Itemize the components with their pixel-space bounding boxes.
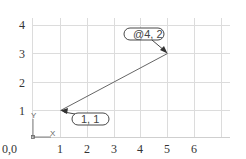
origin-label: 0,0 (2, 142, 17, 156)
x-tick-3: 3 (111, 142, 117, 156)
annotation-end: @4, 2 (124, 28, 168, 54)
annotation-end-text: @4, 2 (133, 28, 163, 40)
x-tick-2: 2 (84, 142, 90, 156)
x-tick-6: 6 (191, 142, 197, 156)
y-tick-1: 1 (19, 104, 25, 118)
y-tick-4: 4 (19, 18, 25, 32)
x-tick-5: 5 (164, 142, 170, 156)
axis-indicator-icon (32, 119, 52, 139)
y-axis-indicator-label: Y (31, 111, 37, 120)
arrowhead-icon (160, 46, 168, 54)
x-tick-1: 1 (57, 142, 63, 156)
annotation-start-text: 1, 1 (81, 113, 99, 125)
y-tick-2: 2 (19, 76, 25, 90)
x-axis-indicator-label: X (50, 129, 56, 138)
x-tick-4: 4 (137, 142, 143, 156)
y-tick-3: 3 (19, 47, 25, 61)
coordinate-plot: 4 3 2 1 0,0 1 2 3 4 5 6 X Y @4, 2 1, 1 (0, 0, 246, 159)
